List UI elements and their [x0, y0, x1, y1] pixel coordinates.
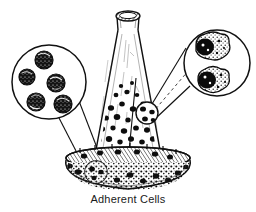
flask-source-circle-right [136, 102, 158, 124]
round-cell [47, 74, 65, 92]
figure-illustration [0, 0, 256, 212]
round-cell [27, 93, 45, 111]
suspension-cells-callout [12, 45, 86, 119]
round-cell [54, 95, 72, 113]
adherent-cells-callout [184, 30, 250, 96]
round-cell [35, 51, 53, 69]
adherent-cell [196, 32, 230, 60]
figure-caption: Adherent Cells [0, 193, 256, 206]
round-cell [19, 69, 35, 85]
adherent-cells-figure: Adherent Cells [0, 0, 256, 212]
cell-nucleus [196, 39, 214, 56]
adherent-cell [198, 67, 230, 93]
cell-nucleus [198, 72, 216, 89]
flask-mouth-opening [120, 12, 137, 18]
